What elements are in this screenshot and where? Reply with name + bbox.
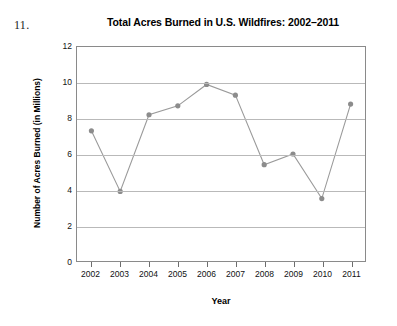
y-tick-label: 0	[46, 257, 72, 267]
y-tick-label: 2	[46, 221, 72, 231]
x-tick	[178, 262, 179, 267]
y-tick-label: 8	[46, 113, 72, 123]
y-axis-tick-labels: 024681012	[44, 46, 72, 262]
x-tick	[120, 262, 121, 267]
x-tick	[91, 262, 92, 267]
y-tick-label: 6	[46, 149, 72, 159]
x-tick	[265, 262, 266, 267]
x-tick	[294, 262, 295, 267]
x-axis-ticks	[76, 262, 366, 268]
gridline	[77, 227, 365, 228]
x-axis-title: Year	[76, 296, 366, 306]
chart-title: Total Acres Burned in U.S. Wildfires: 20…	[58, 16, 388, 28]
series-line	[91, 84, 350, 198]
x-tick	[149, 262, 150, 267]
data-point-marker: 2004: 8.2	[146, 112, 151, 117]
y-tick-label: 10	[46, 77, 72, 87]
data-series-line: 2002: 7.32003: 3.92004: 8.22005: 8.72006…	[77, 47, 365, 261]
wildfires-line-chart-figure: 11. Total Acres Burned in U.S. Wildfires…	[0, 0, 397, 326]
x-tick	[207, 262, 208, 267]
question-number: 11.	[14, 18, 29, 33]
gridline	[77, 191, 365, 192]
y-tick-label: 4	[46, 185, 72, 195]
x-axis-tick-labels: 2002200320042005200620072008200920102011	[76, 269, 366, 285]
data-point-marker: 2005: 8.7	[175, 103, 180, 108]
x-tick	[352, 262, 353, 267]
data-point-marker: 2010: 3.5	[319, 196, 324, 201]
gridline	[77, 155, 365, 156]
data-point-marker: 2002: 7.3	[89, 128, 94, 133]
data-point-marker: 2008: 5.4	[262, 162, 267, 167]
plot-area: 2002: 7.32003: 3.92004: 8.22005: 8.72006…	[76, 46, 366, 262]
x-tick	[323, 262, 324, 267]
data-point-marker: 2011: 8.8	[348, 101, 353, 106]
gridline	[77, 83, 365, 84]
y-axis-title: Number of Acres Burned (in Millions)	[32, 53, 42, 253]
x-tick-label: 2011	[332, 269, 372, 279]
gridline	[77, 119, 365, 120]
data-point-marker: 2007: 9.3	[233, 93, 238, 98]
x-tick	[236, 262, 237, 267]
y-tick-label: 12	[46, 41, 72, 51]
